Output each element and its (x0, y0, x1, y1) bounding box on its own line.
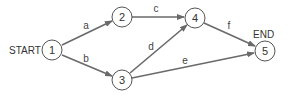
node-5: 5 (255, 41, 275, 61)
edge-label-a: a (83, 20, 89, 31)
network-diagram: a b c d e f 1 2 3 4 5 (0, 0, 290, 96)
node-3: 3 (112, 70, 132, 90)
node-1: 1 (42, 40, 62, 60)
edge-label-f: f (228, 20, 231, 31)
node-label: 1 (49, 44, 55, 56)
edge-d (130, 25, 187, 73)
node-2: 2 (112, 7, 132, 27)
edge-label-d: d (148, 41, 154, 52)
edges: a b c d e f (62, 3, 255, 78)
edge-label-e: e (182, 55, 188, 66)
end-label: END (253, 29, 274, 40)
edge-label-b: b (83, 53, 89, 64)
node-label: 4 (192, 12, 198, 24)
start-label: START (9, 45, 41, 56)
node-4: 4 (185, 8, 205, 28)
node-label: 2 (119, 11, 125, 23)
edge-label-c: c (154, 3, 159, 14)
node-label: 3 (119, 74, 125, 86)
node-label: 5 (262, 45, 268, 57)
